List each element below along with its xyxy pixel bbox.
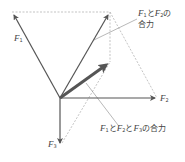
vector-resultant	[60, 65, 106, 98]
vector-f1-plus-f2	[60, 15, 108, 98]
leader-f123	[86, 83, 118, 125]
label-f3: F3	[48, 140, 57, 151]
label-f1-plus-f2: F1とF2の 合力	[138, 9, 171, 29]
label-f1: F1	[14, 34, 23, 45]
label-f2: F2	[160, 94, 169, 105]
vector-f1	[14, 15, 60, 98]
label-resultant: F1とF2とF3の合力	[100, 124, 166, 135]
